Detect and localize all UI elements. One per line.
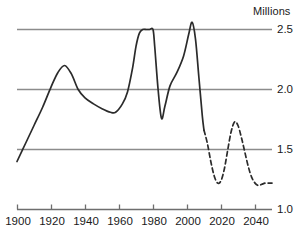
series-line-historical: [17, 22, 204, 161]
x-tick-label-1940: 1940: [73, 215, 99, 227]
gridlines-group: [17, 30, 272, 150]
y-tick-label-2-0: 2.0: [277, 83, 293, 95]
x-tick-label-2040: 2040: [243, 215, 269, 227]
chart-container: Millions 2.5 2.0 1.5 1.0 1900 1920 1940 …: [0, 0, 303, 248]
y-tick-label-1-5: 1.5: [277, 143, 293, 155]
x-tick-label-1960: 1960: [107, 215, 133, 227]
x-tick-label-1900: 1900: [5, 215, 31, 227]
y-tick-label-1-0: 1.0: [277, 203, 293, 215]
x-axis-group: [17, 205, 272, 210]
line-chart-plot: [0, 0, 303, 248]
y-axis-unit-label: Millions: [253, 5, 290, 17]
y-tick-label-2-5: 2.5: [277, 23, 293, 35]
x-tick-label-1920: 1920: [39, 215, 65, 227]
x-tick-label-1980: 1980: [141, 215, 167, 227]
x-tick-label-2000: 2000: [175, 215, 201, 227]
series-line-projection: [204, 122, 272, 186]
x-tick-label-2020: 2020: [209, 215, 235, 227]
